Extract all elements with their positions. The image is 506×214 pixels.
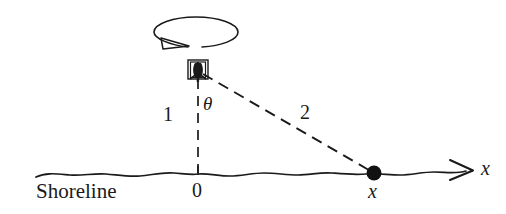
label-angle-theta: θ [203, 94, 212, 113]
label-point-x: x [368, 181, 377, 201]
beam-distance-line [203, 74, 374, 173]
rotation-indicator-group [154, 17, 238, 49]
label-x-axis: x [481, 158, 490, 178]
label-shoreline: Shoreline [36, 181, 116, 202]
rotation-ellipse-icon [154, 17, 238, 47]
point-marker [367, 166, 382, 181]
x-axis-arrowhead-icon [450, 160, 473, 180]
label-distance-vertical: 1 [163, 104, 173, 124]
beacon-icon [188, 60, 208, 82]
label-origin: 0 [192, 180, 202, 200]
beacon-shoreline-figure: 1 2 θ 0 x x Shoreline [0, 0, 506, 214]
label-distance-beam: 2 [300, 102, 310, 122]
shoreline-curve [36, 171, 466, 177]
